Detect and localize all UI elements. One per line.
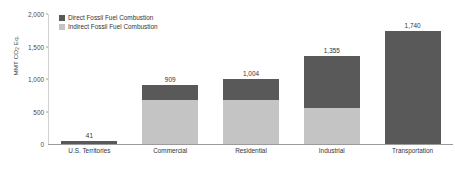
stacked-bar[interactable] — [142, 85, 198, 144]
bar-segment-indirect[interactable] — [223, 100, 279, 144]
y-axis-tick-label: 2,000 — [28, 11, 44, 18]
bar-segment-direct[interactable] — [385, 31, 441, 144]
bar-segment-direct[interactable] — [61, 141, 117, 144]
stacked-bar[interactable] — [61, 141, 117, 144]
y-axis-ticks: 05001,0001,5002,000 — [18, 14, 48, 144]
x-axis-label: U.S. Territories — [68, 147, 110, 154]
plot-area: 419091,0041,3551,740 — [49, 14, 453, 144]
bar-group: 909 — [142, 14, 198, 144]
bar-segment-indirect[interactable] — [142, 100, 198, 144]
bar-segment-indirect[interactable] — [304, 108, 360, 144]
bar-value-label: 1,004 — [243, 70, 259, 77]
x-axis-line — [48, 144, 453, 145]
legend-swatch-icon — [59, 24, 65, 30]
stacked-bar[interactable] — [304, 56, 360, 144]
bar-group: 1,355 — [304, 14, 360, 144]
y-axis-tick-label: 500 — [33, 108, 44, 115]
bar-value-label: 1,355 — [324, 47, 340, 54]
stacked-bar[interactable] — [223, 79, 279, 144]
chart-legend: Direct Fossil Fuel CombustionIndirect Fo… — [59, 14, 158, 32]
legend-swatch-icon — [59, 15, 65, 21]
bar-segment-direct[interactable] — [142, 85, 198, 100]
y-axis-tick-label: 1,000 — [28, 76, 44, 83]
bar-value-label: 1,740 — [405, 22, 421, 29]
stacked-bar[interactable] — [385, 31, 441, 144]
bar-group: 1,004 — [223, 14, 279, 144]
legend-item-label: Direct Fossil Fuel Combustion — [68, 14, 153, 21]
legend-item-label: Indirect Fossil Fuel Combustion — [68, 23, 158, 30]
bar-value-label: 41 — [86, 132, 93, 139]
stacked-bar-chart: MMT CO2 Eq. 05001,0001,5002,000 419091,0… — [0, 0, 455, 174]
bar-segment-direct[interactable] — [304, 56, 360, 108]
bar-group: 41 — [61, 14, 117, 144]
x-axis-label: Industrial — [319, 147, 345, 154]
legend-item[interactable]: Indirect Fossil Fuel Combustion — [59, 23, 158, 30]
y-axis-tick-label: 0 — [40, 141, 44, 148]
x-axis-label: Commercial — [153, 147, 187, 154]
x-axis-label: Transportation — [392, 147, 433, 154]
bar-value-label: 909 — [165, 76, 176, 83]
y-axis-tick-label: 1,500 — [28, 43, 44, 50]
legend-item[interactable]: Direct Fossil Fuel Combustion — [59, 14, 158, 21]
bar-group: 1,740 — [385, 14, 441, 144]
bar-segment-direct[interactable] — [223, 79, 279, 101]
x-axis-label: Residential — [235, 147, 267, 154]
